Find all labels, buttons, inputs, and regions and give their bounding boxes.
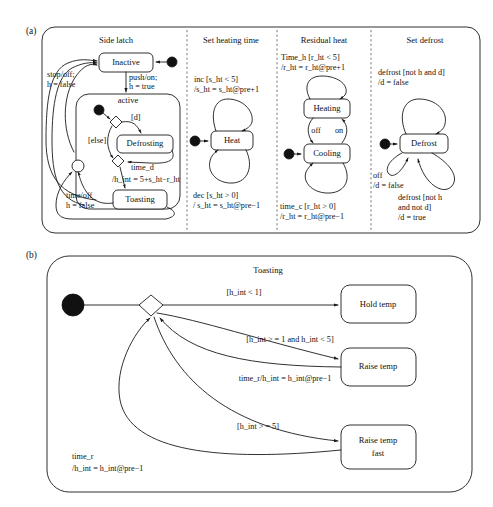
state-label-inactive: Inactive bbox=[112, 57, 140, 67]
transition-inc-action: /s_ht = s_ht@pre+1 bbox=[194, 85, 259, 94]
transition-off2-action: /d = false bbox=[373, 181, 404, 190]
transition-defrost2-trigger2: and not d] bbox=[398, 203, 431, 212]
state-label-heating: Heating bbox=[313, 103, 341, 113]
guard-h-int-gte-5: [h_int > = 5] bbox=[237, 422, 279, 431]
state-label-toasting: Toasting bbox=[125, 194, 155, 204]
region-title-side-latch: Side latch bbox=[99, 35, 134, 45]
state-label-cooling: Cooling bbox=[313, 148, 341, 158]
region-set-heating-time: Set heating time inc [s_ht < 5] /s_ht = … bbox=[190, 35, 260, 210]
edge-choice1-to-choice2 bbox=[108, 126, 113, 158]
transition-stop-off-trigger: stop/off; bbox=[47, 70, 75, 79]
initial-node-active bbox=[94, 105, 104, 115]
edge-defrost-self-off bbox=[387, 153, 408, 175]
region-title-residual-heat: Residual heat bbox=[301, 35, 348, 45]
panel-a-label: (a) bbox=[26, 26, 36, 37]
initial-node-defrost bbox=[380, 139, 390, 149]
choice-node-toasting[interactable] bbox=[139, 295, 163, 316]
panel-b: (b) Toasting [h_int < 1] Hold temp [h_in… bbox=[26, 250, 472, 492]
edge-choice1-to-defrosting bbox=[122, 122, 141, 133]
state-machine-diagram: (a) Side latch Inactive active bbox=[0, 0, 493, 507]
transition-time-h-action: /r_ht = r_ht@pre+1 bbox=[281, 63, 345, 72]
transition-defrost2-trigger: defrost [not h bbox=[398, 193, 442, 202]
state-label-raise-temp-fast-2: fast bbox=[372, 448, 385, 458]
figure-root: (a) Side latch Inactive active bbox=[0, 0, 493, 507]
initial-node-heat bbox=[190, 136, 200, 146]
region-title-set-defrost: Set defrost bbox=[407, 35, 445, 45]
region-residual-heat: Residual heat Time_h [r_ht < 5] /r_ht = … bbox=[280, 35, 350, 221]
composite-label-active: active bbox=[118, 95, 139, 105]
panel-b-label: (b) bbox=[26, 250, 37, 261]
transition-push-on-trigger: push/on; bbox=[129, 73, 157, 82]
transition-defrost1-trigger: defrost [not h and d] bbox=[378, 68, 445, 77]
transition-time-c-action: /r_ht = r_ht@pre−1 bbox=[280, 212, 344, 221]
initial-node-side-latch bbox=[167, 57, 177, 67]
transition-time-r-fast-trigger: time_r bbox=[72, 452, 94, 461]
transition-time-r-fast-action: /h_int = h_int@pre−1 bbox=[72, 464, 143, 473]
region-side-latch: Side latch Inactive active push/on; h = … bbox=[46, 35, 181, 219]
transition-inc-trigger: inc [s_ht < 5] bbox=[194, 75, 238, 84]
state-label-heat: Heat bbox=[224, 135, 241, 145]
exit-junction-node[interactable] bbox=[72, 160, 84, 172]
guard-else: [else] bbox=[88, 136, 106, 145]
transition-time-c-trigger: time_c [r_ht > 0] bbox=[280, 202, 336, 211]
guard-h-int-1-to-5: [h_int > = 1 and h_int < 5] bbox=[246, 335, 334, 344]
state-label-defrost: Defrost bbox=[411, 138, 437, 148]
edge-init-to-choice1 bbox=[103, 113, 110, 119]
transition-time-off-trigger: time/off bbox=[66, 191, 92, 200]
region-set-defrost: Set defrost defrost [not h and d] /d = f… bbox=[373, 35, 455, 222]
transition-dec-trigger: dec [s_ht > 0] bbox=[193, 191, 239, 200]
edge-heat-self-inc bbox=[213, 99, 252, 131]
guard-h-int-lt-1: [h_int < 1] bbox=[226, 288, 261, 297]
transition-time-r-raise: time_r/h_int = h_int@pre−1 bbox=[239, 374, 332, 383]
state-label-hold-temp: Hold temp bbox=[360, 299, 397, 309]
transition-off-label: off bbox=[311, 126, 321, 135]
transition-defrost1-action: /d = false bbox=[378, 78, 409, 87]
transition-push-on-action: h = true bbox=[129, 82, 155, 91]
initial-node-cooling bbox=[284, 149, 294, 159]
transition-time-off-action: h = false bbox=[66, 201, 95, 210]
edge-defrost-self-bottom bbox=[418, 153, 455, 190]
transition-dec-action: / s_ht = s_ht@pre−1 bbox=[193, 201, 260, 210]
transition-off2-trigger: off bbox=[373, 171, 383, 180]
panel-a: (a) Side latch Inactive active bbox=[26, 26, 480, 233]
initial-node-toasting bbox=[62, 294, 84, 316]
edge-heat-self-dec bbox=[210, 150, 250, 183]
transition-time-h-trigger: Time_h [r_ht < 5] bbox=[281, 53, 340, 62]
state-label-defrosting: Defrosting bbox=[127, 138, 164, 148]
transition-on-label: on bbox=[335, 126, 343, 135]
guard-d: [d] bbox=[131, 113, 141, 122]
edge-heating-self bbox=[307, 76, 346, 99]
region-title-set-heating-time: Set heating time bbox=[203, 35, 259, 45]
state-label-raise-temp: Raise temp bbox=[359, 361, 397, 371]
state-label-raise-temp-fast: Raise temp bbox=[359, 435, 397, 445]
choice-node-2[interactable] bbox=[112, 155, 124, 167]
edge-defrost-self-top bbox=[402, 99, 445, 134]
panel-b-title: Toasting bbox=[253, 265, 283, 275]
transition-defrost2-action: /d = true bbox=[398, 213, 426, 222]
transition-time-d-trigger: time_d bbox=[131, 163, 154, 172]
edge-cooling-self-timec bbox=[305, 163, 347, 193]
